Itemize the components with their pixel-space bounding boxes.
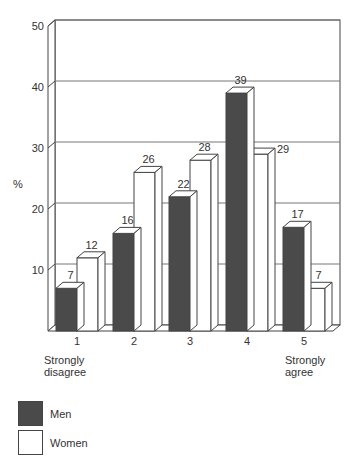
anchor-line: disagree [44, 366, 86, 378]
bar-men [283, 221, 311, 331]
x-tick-label: 2 [131, 335, 137, 347]
label-strongly-disagree: Strongly disagree [44, 354, 86, 378]
x-tick-label: 5 [301, 335, 307, 347]
y-tick-label: 50 [32, 20, 44, 32]
value-label-men: 16 [121, 214, 133, 226]
bar-men [113, 227, 141, 331]
legend: Men Women [18, 399, 88, 457]
x-tick-label: 1 [74, 335, 80, 347]
legend-item-men: Men [18, 399, 88, 428]
x-tick-label: 3 [187, 335, 193, 347]
legend-item-women: Women [18, 428, 88, 457]
y-tick-label: 40 [32, 81, 44, 93]
men-swatch [18, 401, 43, 426]
bar-men [169, 191, 197, 331]
y-axis-label: % [13, 178, 23, 190]
value-label-men: 17 [291, 208, 303, 220]
legend-label-women: Women [50, 437, 88, 449]
anchor-line: Strongly [285, 354, 325, 366]
value-label-men: 39 [234, 74, 246, 86]
label-strongly-agree: Strongly agree [285, 354, 325, 378]
anchor-line: Strongly [44, 354, 86, 366]
legend-label-men: Men [50, 408, 71, 420]
x-tick-label: 4 [244, 335, 250, 347]
value-label-women: 29 [277, 143, 289, 155]
y-tick-label: 30 [32, 142, 44, 154]
y-tick-label: 20 [32, 203, 44, 215]
bar-men [56, 282, 84, 331]
value-label-women: 7 [315, 269, 321, 281]
anchor-line: agree [285, 366, 325, 378]
value-label-women: 26 [142, 153, 154, 165]
value-label-men: 22 [177, 178, 189, 190]
value-label-women: 28 [198, 141, 210, 153]
y-tick-label: 10 [32, 264, 44, 276]
value-label-women: 12 [85, 239, 97, 251]
bar-chart: 1020304050%71211626222283392941775 [0, 0, 357, 400]
side-wall [48, 20, 55, 331]
women-swatch [18, 430, 43, 455]
value-label-men: 7 [67, 269, 73, 281]
bar-men [226, 87, 254, 331]
